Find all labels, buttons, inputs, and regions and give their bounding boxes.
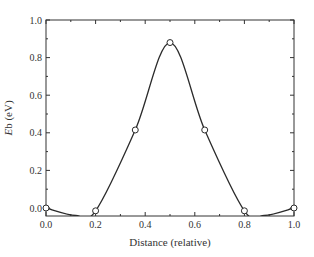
data-point-marker: [167, 40, 173, 46]
data-point-marker: [132, 127, 138, 133]
data-point-marker: [291, 205, 297, 211]
y-tick-label: 0.6: [30, 90, 43, 101]
data-curve: [46, 43, 294, 219]
y-tick-label: 0.2: [30, 165, 43, 176]
x-tick-label: 0.8: [238, 219, 251, 230]
plot-frame: [46, 20, 294, 216]
y-tick-label: 0.4: [30, 127, 43, 138]
y-tick-label: 0.0: [30, 203, 43, 214]
y-tick-label: 1.0: [30, 15, 43, 26]
data-point-marker: [202, 127, 208, 133]
y-tick-label: 0.8: [30, 52, 43, 63]
energy-curve: [46, 43, 294, 219]
data-point-marker: [241, 208, 247, 214]
x-axis-label: Distance (relative): [129, 236, 211, 249]
x-tick-label: 0.6: [189, 219, 202, 230]
data-point-marker: [93, 208, 99, 214]
plot-axes: [46, 20, 294, 216]
energy-barrier-chart: 0.00.20.40.60.81.00.00.20.40.60.81.0 Dis…: [0, 0, 314, 257]
x-tick-label: 1.0: [288, 219, 301, 230]
x-tick-label: 0.4: [139, 219, 152, 230]
data-markers: [43, 40, 297, 214]
data-point-marker: [43, 205, 49, 211]
x-tick-label: 0.0: [40, 219, 53, 230]
y-axis-label: Eb (eV): [2, 100, 15, 136]
y-axis-label-rest: b (eV): [2, 100, 15, 129]
x-tick-label: 0.2: [89, 219, 102, 230]
